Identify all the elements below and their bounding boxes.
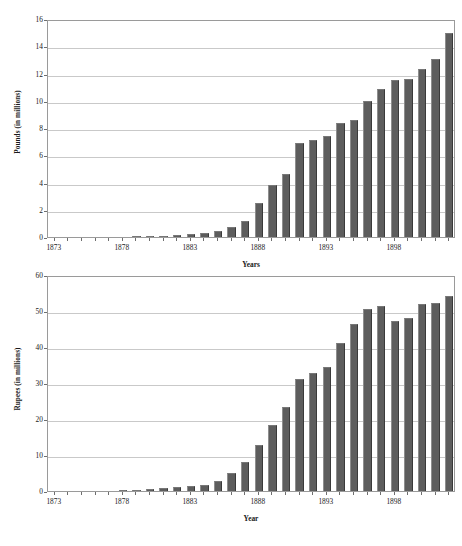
x-axis-tick-mark [81, 492, 82, 495]
rupees-x-axis-title: Year [47, 514, 455, 523]
x-axis-tick-mark [67, 492, 68, 495]
bar [227, 473, 235, 491]
y-axis-tick-label: 4 [39, 180, 43, 188]
bar [132, 490, 140, 491]
bar [336, 343, 344, 491]
y-axis-tick-label: 30 [36, 380, 43, 388]
bar [241, 462, 249, 491]
x-axis-tick-mark [163, 238, 164, 241]
x-axis-tick-mark [95, 492, 96, 495]
x-axis-tick-mark [312, 238, 313, 241]
pounds-y-axis-title: Pounds (in millions) [14, 67, 22, 177]
x-axis-tick-label: 1898 [374, 243, 414, 252]
y-axis-tick-label: 50 [36, 308, 43, 316]
x-axis-tick-mark [326, 492, 327, 495]
y-axis-tick-mark [44, 184, 47, 185]
x-axis-tick-mark [407, 238, 408, 241]
x-axis-tick-mark [326, 238, 327, 241]
x-axis-tick-mark [380, 492, 381, 495]
x-axis-tick-mark [149, 238, 150, 241]
bar [404, 318, 412, 491]
rupees-plot-area [47, 276, 455, 492]
x-axis-tick-mark [285, 238, 286, 241]
bar [159, 236, 167, 237]
x-axis-tick-mark [258, 238, 259, 241]
x-axis-tick-mark [122, 238, 123, 241]
bar [363, 101, 371, 237]
bar [391, 80, 399, 237]
y-axis-tick-mark [44, 384, 47, 385]
pounds-x-axis-title: Years [47, 260, 455, 269]
bar [241, 221, 249, 237]
x-axis-tick-mark [394, 238, 395, 241]
x-axis-tick-mark [163, 492, 164, 495]
x-axis-tick-mark [353, 492, 354, 495]
x-axis-tick-mark [54, 238, 55, 241]
rupees-bar-series [48, 277, 454, 491]
x-axis-tick-mark [367, 492, 368, 495]
bar [431, 303, 439, 491]
x-axis-tick-mark [54, 492, 55, 495]
x-axis-tick-mark [190, 238, 191, 241]
bar [391, 321, 399, 491]
y-axis-tick-label: 6 [39, 152, 43, 160]
x-axis-tick-mark [299, 492, 300, 495]
y-axis-tick-mark [44, 276, 47, 277]
bar [336, 123, 344, 237]
x-axis-tick-mark [258, 492, 259, 495]
x-axis-tick-mark [203, 238, 204, 241]
x-axis-tick-mark [176, 492, 177, 495]
x-axis-tick-mark [244, 238, 245, 241]
x-axis-tick-mark [190, 492, 191, 495]
x-axis-tick-mark [394, 492, 395, 495]
bar [200, 233, 208, 237]
x-axis-tick-label: 1888 [238, 497, 278, 506]
x-axis-tick-mark [81, 238, 82, 241]
x-axis-tick-label: 1883 [170, 243, 210, 252]
y-axis-tick-label: 0 [39, 234, 43, 242]
y-axis-tick-mark [44, 238, 47, 239]
x-axis-tick-mark [339, 238, 340, 241]
x-axis-tick-mark [231, 238, 232, 241]
x-axis-tick-label: 1878 [102, 497, 142, 506]
x-axis-tick-mark [312, 492, 313, 495]
y-axis-tick-label: 10 [36, 98, 43, 106]
y-axis-tick-mark [44, 20, 47, 21]
x-axis-tick-mark [339, 492, 340, 495]
pounds-plot-area [47, 20, 455, 238]
y-axis-tick-mark [44, 211, 47, 212]
x-axis-tick-mark [122, 492, 123, 495]
x-axis-tick-mark [285, 492, 286, 495]
bar [255, 203, 263, 237]
x-axis-tick-mark [367, 238, 368, 241]
x-axis-tick-mark [135, 492, 136, 495]
bar [187, 234, 195, 237]
bar [295, 143, 303, 237]
x-axis-tick-mark [407, 492, 408, 495]
bar [418, 304, 426, 491]
bar [309, 140, 317, 237]
bar [200, 485, 208, 491]
y-axis-tick-mark [44, 47, 47, 48]
bar [214, 481, 222, 491]
bar [363, 309, 371, 491]
y-axis-tick-label: 60 [36, 272, 43, 280]
bar [173, 487, 181, 491]
x-axis-tick-mark [203, 492, 204, 495]
bar [159, 488, 167, 491]
bar [282, 174, 290, 237]
y-axis-tick-label: 14 [36, 43, 43, 51]
x-axis-tick-mark [271, 238, 272, 241]
bar [377, 89, 385, 238]
x-axis-tick-mark [149, 492, 150, 495]
bar [187, 486, 195, 491]
x-axis-tick-mark [108, 238, 109, 241]
bar [404, 79, 412, 237]
y-axis-tick-label: 2 [39, 207, 43, 215]
bar [295, 379, 303, 491]
bar [146, 236, 154, 237]
y-axis-tick-mark [44, 492, 47, 493]
bar [146, 489, 154, 491]
bar [323, 367, 331, 491]
y-axis-tick-label: 16 [36, 16, 43, 24]
